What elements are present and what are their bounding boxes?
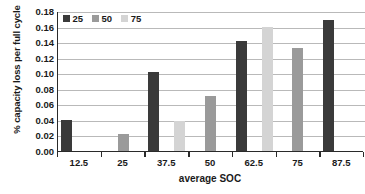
bar-group	[189, 12, 233, 151]
legend-label: 50	[102, 14, 113, 24]
bar-group	[58, 12, 102, 151]
y-axis-tick-label: 0.14	[16, 38, 54, 48]
bar-chart: % capacity loss per full cycle 0.000.020…	[0, 0, 365, 194]
y-axis-tick-labels: 0.000.020.040.060.080.100.120.140.160.18	[16, 12, 54, 152]
bar-group	[102, 12, 146, 151]
bar[interactable]	[148, 72, 159, 151]
x-axis-title: average SOC	[57, 173, 363, 184]
legend-swatch-icon	[92, 15, 99, 22]
x-axis-tick-label: 87.5	[319, 157, 363, 168]
legend-label: 25	[73, 14, 84, 24]
bar[interactable]	[61, 120, 72, 151]
x-axis-tick-label: 75	[276, 157, 320, 168]
bar-group	[276, 12, 320, 151]
legend-label: 75	[131, 14, 142, 24]
legend-swatch-icon	[63, 15, 70, 22]
bars-layer	[58, 12, 363, 151]
plot-area	[57, 12, 363, 152]
x-axis-tick-label: 62.5	[232, 157, 276, 168]
x-axis-tick-label: 37.5	[144, 157, 188, 168]
x-axis-tick-label: 50	[188, 157, 232, 168]
y-axis-tick-label: 0.08	[16, 85, 54, 95]
bar-group	[232, 12, 276, 151]
y-axis-tick-label: 0.02	[16, 132, 54, 142]
bar[interactable]	[262, 27, 273, 151]
x-axis-tick-label: 12.5	[57, 157, 101, 168]
bar-group	[319, 12, 363, 151]
bar[interactable]	[205, 96, 216, 151]
x-axis-tick-label: 25	[101, 157, 145, 168]
legend-item[interactable]: 50	[92, 14, 112, 24]
y-axis-tick-label: 0.16	[16, 23, 54, 33]
y-axis-tick-label: 0.04	[16, 116, 54, 126]
y-axis-tick-label: 0.12	[16, 54, 54, 64]
y-axis-tick-label: 0.00	[16, 147, 54, 157]
y-axis-tick-label: 0.10	[16, 69, 54, 79]
x-axis-tick-labels: 12.52537.55062.57587.5	[57, 157, 363, 168]
bar[interactable]	[174, 121, 185, 151]
y-axis-tick-label: 0.18	[16, 7, 54, 17]
bar[interactable]	[292, 48, 303, 151]
legend-item[interactable]: 25	[63, 14, 83, 24]
y-axis-tick-label: 0.06	[16, 101, 54, 111]
x-axis-tick	[363, 152, 364, 157]
legend-swatch-icon	[121, 15, 128, 22]
bar[interactable]	[236, 41, 247, 151]
bar-group	[145, 12, 189, 151]
legend-item[interactable]: 75	[121, 14, 141, 24]
bar[interactable]	[118, 134, 129, 151]
legend: 255075	[63, 14, 141, 24]
bar[interactable]	[323, 20, 334, 151]
